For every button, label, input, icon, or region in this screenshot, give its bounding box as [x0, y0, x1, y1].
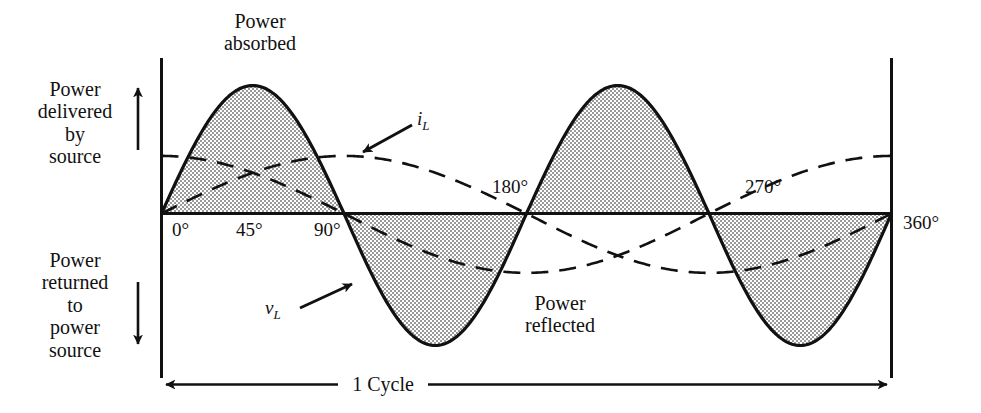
- power-returned-label: Power returned to power source: [20, 249, 130, 361]
- power-lobe-shading: [527, 86, 710, 214]
- vL-pointer-arrow-icon: [300, 284, 352, 308]
- xtick-360: 360°: [903, 212, 939, 233]
- iL-pointer-arrow-icon: [363, 125, 412, 152]
- xtick-90: 90°: [314, 219, 341, 240]
- xtick-180: 180°: [492, 176, 528, 197]
- xtick-45: 45°: [236, 219, 263, 240]
- power-delivered-label: Power delivered by source: [20, 78, 130, 168]
- power-reflected-label: Power reflected: [490, 292, 630, 337]
- power-waveform-figure: [0, 0, 981, 413]
- vL-curve-label: vL: [265, 297, 281, 322]
- power-absorbed-title: Power absorbed: [180, 10, 340, 55]
- xtick-270: 270°: [745, 176, 781, 197]
- power-lobe-shading: [709, 214, 892, 346]
- iL-curve-label: iL: [417, 108, 430, 133]
- cycle-label: 1 Cycle: [343, 373, 423, 395]
- power-lobe-shading: [162, 86, 345, 214]
- xtick-0: 0°: [172, 219, 189, 240]
